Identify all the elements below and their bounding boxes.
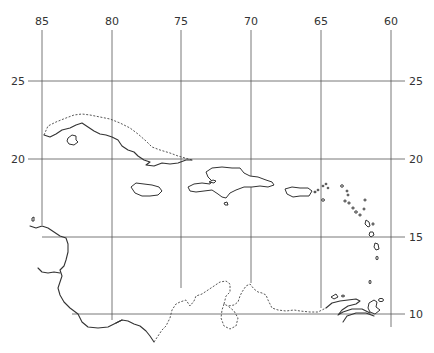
panama-colombia-coast <box>116 320 154 342</box>
hispaniola-coast <box>188 167 274 198</box>
montserrat <box>344 200 346 202</box>
lon-label-85: 85 <box>35 15 49 28</box>
saint-vincent <box>376 256 378 260</box>
islet <box>314 191 316 193</box>
islet <box>322 185 324 187</box>
cuba-north-shelf <box>44 114 192 160</box>
antigua <box>348 202 350 204</box>
lesser-antilles <box>341 185 384 302</box>
barbuda <box>352 207 354 209</box>
cuba <box>44 114 192 166</box>
islet <box>341 295 344 297</box>
swan-islet <box>32 217 34 221</box>
trinidad <box>368 300 380 314</box>
cuba-coast <box>44 123 192 166</box>
saint-kitts <box>346 190 348 192</box>
tobago <box>379 298 384 301</box>
margarita <box>331 294 338 299</box>
anguilla <box>341 185 344 187</box>
lon-label-70: 70 <box>244 15 258 28</box>
saint-lucia <box>374 243 379 250</box>
central-america-coast <box>30 226 122 328</box>
grenada <box>369 280 371 284</box>
lon-label-80: 80 <box>105 15 119 28</box>
islet <box>327 187 329 189</box>
islet <box>317 189 319 191</box>
lat-label-right-15: 15 <box>409 231 423 244</box>
lon-label-65: 65 <box>314 15 328 28</box>
islet <box>364 199 366 201</box>
marie-galante <box>359 214 361 216</box>
lon-label-75: 75 <box>174 15 188 28</box>
hispaniola <box>188 167 274 205</box>
islet <box>325 183 327 185</box>
lat-label-left-20: 20 <box>11 153 25 166</box>
nicaragua-coast-river <box>38 268 60 273</box>
lat-label-right-20: 20 <box>409 153 423 166</box>
puerto-rico <box>285 187 312 197</box>
guadeloupe <box>355 211 358 213</box>
ile-de-la-tortue <box>209 180 216 183</box>
jamaica <box>131 183 162 196</box>
martinique <box>369 232 374 237</box>
lat-label-right-10: 10 <box>409 308 423 321</box>
dominica <box>365 220 370 227</box>
islet <box>322 199 325 201</box>
lon-label-60: 60 <box>384 15 398 28</box>
caribbean-map: 85 80 75 70 65 60 25 20 25 20 15 10 <box>0 0 434 353</box>
isla-beata <box>224 202 228 205</box>
south-america <box>116 281 380 342</box>
latitude-labels-right: 25 20 15 10 <box>409 75 423 321</box>
lat-label-left-25: 25 <box>11 75 25 88</box>
isle-of-youth <box>67 135 78 145</box>
longitude-labels: 85 80 75 70 65 60 <box>35 15 398 28</box>
nevis <box>347 194 349 196</box>
colombia-venezuela-coast <box>154 281 326 342</box>
islet <box>363 208 365 210</box>
central-america <box>30 217 122 328</box>
islet <box>372 223 374 225</box>
lake-maracaibo <box>221 304 238 329</box>
latitude-labels-left: 25 20 <box>11 75 25 166</box>
lat-label-right-25: 25 <box>409 75 423 88</box>
